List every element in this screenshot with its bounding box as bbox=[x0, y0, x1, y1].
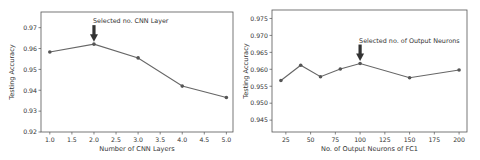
data-point bbox=[92, 42, 96, 46]
y-tick-label: 0.975 bbox=[250, 15, 268, 22]
y-axis-label: Testing Accuracy bbox=[242, 43, 250, 99]
x-tick-label: 2.0 bbox=[89, 136, 99, 143]
x-tick-label: 1.5 bbox=[67, 136, 77, 143]
y-tick-label: 0.93 bbox=[23, 107, 37, 114]
x-tick-label: 100 bbox=[354, 136, 366, 143]
y-tick-label: 0.95 bbox=[23, 66, 37, 73]
plot-frame bbox=[272, 10, 467, 132]
y-tick-label: 0.92 bbox=[23, 128, 37, 135]
x-tick-label: 4.5 bbox=[199, 136, 209, 143]
x-axis-label: No. of Output Neurons of FC1 bbox=[321, 145, 418, 153]
x-tick-label: 125 bbox=[379, 136, 391, 143]
arrow-icon bbox=[358, 45, 361, 55]
x-tick-label: 75 bbox=[331, 136, 339, 143]
x-tick-label: 3.0 bbox=[133, 136, 143, 143]
accuracy-line bbox=[281, 64, 459, 81]
accuracy-line bbox=[50, 44, 227, 97]
x-tick-label: 4.0 bbox=[177, 136, 187, 143]
x-tick-label: 200 bbox=[453, 136, 465, 143]
annotation-label: Selected no. CNN Layer bbox=[93, 17, 169, 25]
y-tick-label: 0.955 bbox=[250, 83, 268, 90]
plot-frame bbox=[41, 12, 233, 132]
y-tick-label: 0.97 bbox=[23, 24, 37, 31]
data-point bbox=[136, 56, 140, 60]
data-point bbox=[408, 76, 412, 80]
x-tick-label: 25 bbox=[282, 136, 290, 143]
y-tick-label: 0.950 bbox=[250, 99, 268, 106]
data-point bbox=[225, 96, 229, 100]
y-tick-label: 0.970 bbox=[250, 32, 268, 39]
y-tick-label: 0.965 bbox=[250, 49, 268, 56]
data-point bbox=[279, 79, 283, 83]
y-tick-label: 0.945 bbox=[250, 116, 268, 123]
arrow-head-icon bbox=[90, 34, 98, 42]
output-neurons-chart: 0.9450.9500.9550.9600.9650.9700.97525507… bbox=[242, 10, 467, 153]
data-point bbox=[358, 62, 362, 66]
arrow-icon bbox=[92, 25, 95, 35]
x-tick-label: 175 bbox=[428, 136, 440, 143]
x-tick-label: 2.5 bbox=[111, 136, 121, 143]
data-point bbox=[48, 50, 52, 54]
x-tick-label: 3.5 bbox=[155, 136, 165, 143]
y-tick-label: 0.96 bbox=[23, 45, 37, 52]
arrow-head-icon bbox=[356, 54, 364, 62]
x-axis-label: Number of CNN Layers bbox=[99, 145, 175, 153]
charts-figure: 0.920.930.940.950.960.971.01.52.02.53.03… bbox=[0, 0, 480, 160]
x-tick-label: 5.0 bbox=[221, 136, 231, 143]
annotation-label: Selected no. of Output Neurons bbox=[359, 37, 460, 45]
y-tick-label: 0.94 bbox=[23, 87, 37, 94]
data-point bbox=[319, 75, 323, 79]
data-point bbox=[299, 63, 303, 67]
data-point bbox=[338, 67, 342, 71]
x-tick-label: 50 bbox=[307, 136, 315, 143]
data-point bbox=[180, 84, 184, 88]
x-tick-label: 1.0 bbox=[45, 136, 55, 143]
y-axis-label: Testing Accuracy bbox=[8, 44, 16, 100]
data-point bbox=[457, 68, 461, 72]
cnn-layers-chart: 0.920.930.940.950.960.971.01.52.02.53.03… bbox=[8, 12, 233, 153]
x-tick-label: 150 bbox=[404, 136, 416, 143]
y-tick-label: 0.960 bbox=[250, 66, 268, 73]
